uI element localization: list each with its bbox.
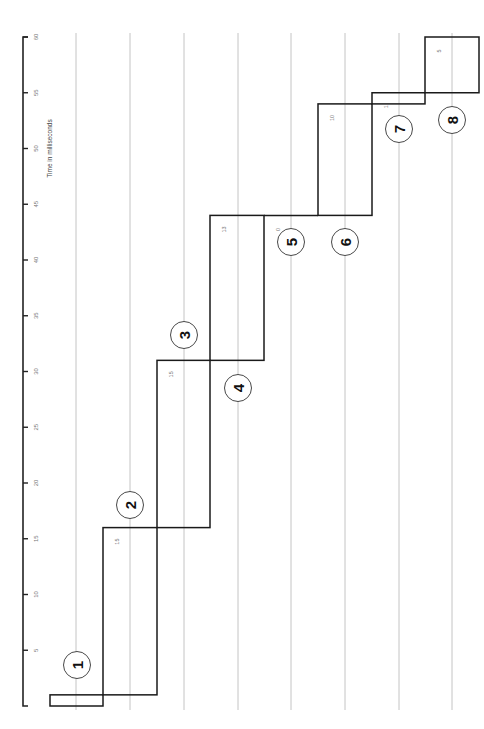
step-boxes: 15151301015 <box>50 37 479 706</box>
time-axis: 51015202530354045505560Time in milliseco… <box>23 33 53 706</box>
step-marker-number: 5 <box>283 238 300 246</box>
duration-label: 15 <box>168 371 174 377</box>
tick-label: 20 <box>33 479 39 486</box>
step-marker-number: 6 <box>337 238 354 246</box>
step-box-7 <box>372 93 425 104</box>
duration-label: 13 <box>221 226 227 232</box>
tick-label: 60 <box>33 33 39 40</box>
tick-label: 40 <box>33 256 39 263</box>
tick-label: 30 <box>33 368 39 375</box>
step-marker-number: 3 <box>176 331 193 339</box>
tick-label: 50 <box>33 145 39 152</box>
axis-label: Time in milliseconds <box>46 119 53 178</box>
tick-label: 15 <box>33 535 39 542</box>
duration-label: 15 <box>114 539 120 545</box>
duration-label: 10 <box>329 115 335 121</box>
tick-label: 25 <box>33 423 39 430</box>
timing-step-chart: 51015202530354045505560Time in milliseco… <box>0 0 484 729</box>
tick-label: 35 <box>33 312 39 319</box>
duration-label: 1 <box>383 105 389 108</box>
step-markers: 12345678 <box>64 107 466 679</box>
tick-label: 45 <box>33 200 39 207</box>
step-marker-number: 7 <box>391 125 408 133</box>
step-box-3 <box>157 360 210 527</box>
duration-label: 5 <box>436 49 442 52</box>
step-marker-number: 4 <box>230 383 247 392</box>
step-marker-number: 8 <box>444 116 461 124</box>
step-marker-number: 2 <box>122 501 139 509</box>
step-marker-number: 1 <box>69 661 86 669</box>
tick-label: 55 <box>33 89 39 96</box>
step-box-1 <box>50 695 103 706</box>
step-box-4 <box>210 215 264 360</box>
tick-label: 10 <box>33 591 39 598</box>
tick-label: 5 <box>33 648 39 652</box>
duration-label: 0 <box>275 228 281 231</box>
